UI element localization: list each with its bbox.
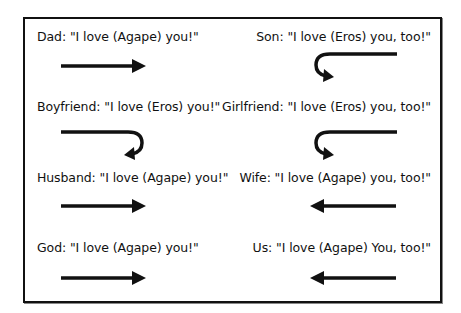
right-arrow-icon — [60, 58, 150, 74]
hook-left-arrow-icon — [310, 128, 400, 160]
right-arrow-icon — [60, 270, 150, 286]
dad-statement: Dad: "I love (Agape) you!" — [37, 29, 199, 44]
wife-statement: Wife: "I love (Agape) you, too!" — [239, 170, 431, 185]
left-arrow-icon — [308, 270, 398, 286]
girlfriend-statement: Girlfriend: "I love (Eros) you, too!" — [222, 99, 431, 114]
boyfriend-statement: Boyfriend: "I love (Eros) you!" — [37, 99, 220, 114]
us-statement: Us: "I love (Agape) You, too!" — [253, 240, 431, 255]
right-arrow-icon — [60, 198, 150, 214]
god-statement: God: "I love (Agape) you!" — [37, 240, 199, 255]
left-arrow-icon — [308, 198, 398, 214]
hook-right-arrow-icon — [60, 128, 150, 160]
hook-left-arrow-icon — [310, 50, 400, 82]
son-statement: Son: "I love (Eros) you, too!" — [256, 29, 431, 44]
husband-statement: Husband: "I love (Agape) you!" — [37, 170, 228, 185]
